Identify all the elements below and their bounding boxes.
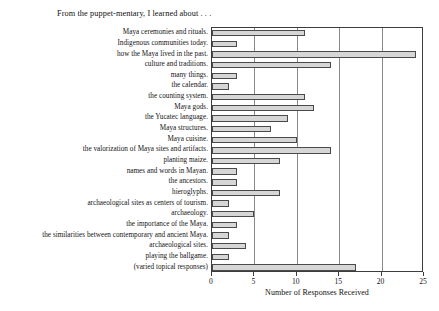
- bar-row: [212, 113, 422, 124]
- chart-title: From the puppet-mentary, I learned about…: [57, 9, 211, 18]
- bar: [212, 168, 237, 174]
- category-label: planting maize.: [0, 156, 208, 164]
- bar-row: [212, 145, 422, 156]
- tick-label-0: 0: [199, 277, 223, 286]
- bar: [212, 264, 356, 270]
- category-label: the Yucatec language.: [0, 113, 208, 121]
- bar-row: [212, 188, 422, 199]
- category-label: the valorization of Maya sites and artif…: [0, 145, 208, 153]
- bar: [212, 51, 416, 57]
- bar: [212, 41, 237, 47]
- category-label: names and words in Mayan.: [0, 167, 208, 175]
- bar-rows: [212, 28, 422, 271]
- category-label: (varied topical responses): [0, 263, 208, 271]
- tick-label-10: 10: [284, 277, 308, 286]
- bar-row: [212, 156, 422, 167]
- bar-row: [212, 60, 422, 71]
- category-label: archaeology.: [0, 209, 208, 217]
- bar: [212, 62, 331, 68]
- bar: [212, 105, 314, 111]
- bar: [212, 137, 297, 143]
- bar-row: [212, 209, 422, 220]
- bar-row: [212, 252, 422, 263]
- bar: [212, 158, 280, 164]
- plot-area: [211, 27, 423, 272]
- bar: [212, 83, 229, 89]
- tick-label-5: 5: [241, 277, 265, 286]
- tick-mark-20: [381, 272, 382, 276]
- bar-row: [212, 230, 422, 241]
- category-label: how the Maya lived in the past.: [0, 50, 208, 58]
- category-axis-labels: Maya ceremonies and rituals.Indigenous c…: [0, 27, 208, 272]
- bar: [212, 30, 305, 36]
- bar-row: [212, 103, 422, 114]
- category-label: Maya ceremonies and rituals.: [0, 28, 208, 36]
- tick-label-15: 15: [326, 277, 350, 286]
- bar: [212, 254, 229, 260]
- bar: [212, 222, 237, 228]
- bar: [212, 147, 331, 153]
- bar-row: [212, 81, 422, 92]
- category-label: the importance of the Maya.: [0, 220, 208, 228]
- bar: [212, 211, 254, 217]
- bar-row: [212, 220, 422, 231]
- bar-row: [212, 92, 422, 103]
- tick-label-25: 25: [411, 277, 435, 286]
- bar: [212, 126, 271, 132]
- bar-row: [212, 135, 422, 146]
- category-label: archaeological sites.: [0, 241, 208, 249]
- bar-row: [212, 49, 422, 60]
- bar: [212, 179, 237, 185]
- bar: [212, 115, 288, 121]
- bar-row: [212, 198, 422, 209]
- bar: [212, 73, 237, 79]
- tick-mark-5: [253, 272, 254, 276]
- bar-row: [212, 39, 422, 50]
- category-label: the counting system.: [0, 92, 208, 100]
- category-label: the ancestors.: [0, 177, 208, 185]
- bar: [212, 94, 305, 100]
- bar-row: [212, 124, 422, 135]
- category-label: archaeological sites as centers of touri…: [0, 199, 208, 207]
- category-label: Maya structures.: [0, 124, 208, 132]
- x-axis-title: Number of Responses Received: [211, 288, 423, 297]
- category-label: Indigenous communities today.: [0, 39, 208, 47]
- category-label: Maya gods.: [0, 103, 208, 111]
- tick-mark-0: [211, 272, 212, 276]
- bar: [212, 243, 246, 249]
- bar: [212, 190, 280, 196]
- tick-label-20: 20: [369, 277, 393, 286]
- category-label: hieroglyphs.: [0, 188, 208, 196]
- bar-row: [212, 28, 422, 39]
- bar: [212, 232, 229, 238]
- tick-mark-15: [338, 272, 339, 276]
- category-label: many things.: [0, 71, 208, 79]
- category-label: culture and traditions.: [0, 60, 208, 68]
- bar-row: [212, 71, 422, 82]
- category-label: playing the ballgame.: [0, 252, 208, 260]
- chart-figure: From the puppet-mentary, I learned about…: [0, 0, 439, 311]
- bar-row: [212, 177, 422, 188]
- category-label: the calendar.: [0, 81, 208, 89]
- tick-mark-10: [296, 272, 297, 276]
- bar: [212, 200, 229, 206]
- tick-mark-25: [423, 272, 424, 276]
- bar-row: [212, 241, 422, 252]
- bar-row: [212, 166, 422, 177]
- category-label: the similarities between contemporary an…: [0, 231, 208, 239]
- bar-row: [212, 262, 422, 273]
- category-label: Maya cuisine.: [0, 135, 208, 143]
